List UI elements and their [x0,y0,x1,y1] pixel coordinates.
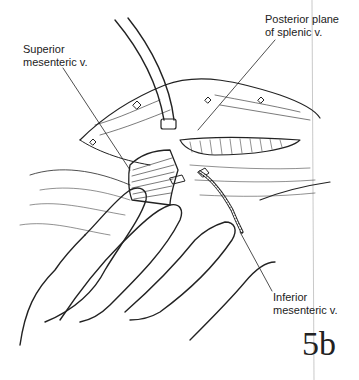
label-line: of splenic v. [265,26,339,39]
label-inferior-mesenteric-v: Inferior mesenteric v. [273,291,338,317]
pancreas-outline [80,79,320,140]
label-line: Inferior [273,291,338,304]
label-line: mesenteric v. [273,304,338,317]
finger-1 [45,188,146,322]
finger-2 [60,205,182,322]
ligated-vessel [170,175,185,184]
hand-outline [20,235,85,345]
figure-number: 5b [302,327,336,361]
catheter-tube [115,20,164,120]
leader-posterior-plane [198,40,275,130]
finger-3 [125,222,235,320]
label-posterior-plane-splenic-v: Posterior plane of splenic v. [265,13,339,39]
label-line: Superior [23,43,88,56]
figure-canvas: Superior mesenteric v. Posterior plane o… [0,0,359,380]
label-superior-mesenteric-v: Superior mesenteric v. [23,43,88,69]
label-line: Posterior plane [265,13,339,26]
page-fold-line [312,0,314,380]
leader-superior-mesenteric [63,68,130,170]
label-line: mesenteric v. [23,56,88,69]
